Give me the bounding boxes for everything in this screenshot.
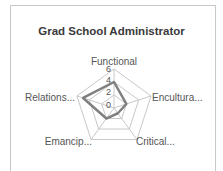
axis-label-encultura: Encultura... <box>152 92 203 103</box>
radar-chart: 0 2 4 6 Functional Encultura... Critical… <box>0 0 223 171</box>
axis-label-functional: Functional <box>91 56 137 67</box>
tick-label-2: 2 <box>106 87 111 97</box>
tick-label-0: 0 <box>106 100 111 110</box>
tick-label-4: 4 <box>106 75 111 85</box>
radar-grid <box>77 69 151 140</box>
axis-label-critical: Critical... <box>136 136 175 147</box>
axis-label-relations: Relations... <box>25 92 75 103</box>
axis-label-emancip: Emancip... <box>45 136 92 147</box>
